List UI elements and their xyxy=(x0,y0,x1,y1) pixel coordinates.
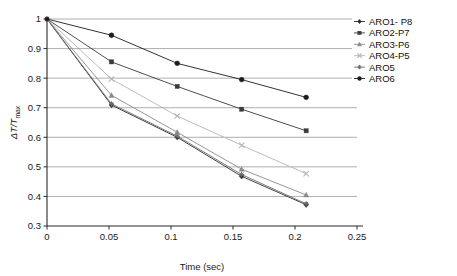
y-tick-label: 0.7 xyxy=(28,102,41,113)
x-tick-label: 0.05 xyxy=(100,231,119,242)
x-tick-label: 0.1 xyxy=(164,231,177,242)
y-tick-label: 0.8 xyxy=(28,73,41,84)
x-tick-label: 0.25 xyxy=(348,231,367,242)
data-point-marker xyxy=(240,107,244,111)
legend-label: ARO4-P5 xyxy=(369,50,410,61)
legend-label: ARO2-P7 xyxy=(369,27,410,38)
x-tick-label: 0.2 xyxy=(288,231,301,242)
legend-label: ARO3-P6 xyxy=(369,39,410,50)
line-chart: 00.050.10.150.20.25 0.30.40.50.60.70.80.… xyxy=(0,0,457,276)
data-point-marker xyxy=(175,61,180,66)
y-tick-label: 0.5 xyxy=(28,161,41,172)
x-tick-label: 0 xyxy=(44,231,49,242)
y-tick-label: 0.4 xyxy=(28,191,41,202)
x-axis-title: Time (sec) xyxy=(180,261,225,272)
legend-label: ARO6 xyxy=(369,73,395,84)
x-tick-label: 0.15 xyxy=(224,231,243,242)
data-point-marker xyxy=(239,77,244,82)
y-tick-label: 0.9 xyxy=(28,43,41,54)
data-point-marker xyxy=(175,84,179,88)
data-point-marker xyxy=(358,77,362,81)
data-point-marker xyxy=(358,31,361,34)
y-tick-label: 0.3 xyxy=(28,220,41,231)
data-point-marker xyxy=(109,60,113,64)
data-point-marker xyxy=(109,33,114,38)
data-point-marker xyxy=(45,17,49,21)
chart-container: 00.050.10.150.20.25 0.30.40.50.60.70.80.… xyxy=(0,0,457,276)
y-tick-label: 0.6 xyxy=(28,132,41,143)
legend-label: ARO1- P8 xyxy=(369,16,412,27)
data-point-marker xyxy=(304,129,308,133)
legend-label: ARO5 xyxy=(369,62,395,73)
data-point-marker xyxy=(304,95,309,100)
chart-legend: ARO1- P8ARO2-P7ARO3-P6ARO4-P5ARO5ARO6 xyxy=(352,14,451,87)
y-tick-label: 1 xyxy=(36,13,41,24)
